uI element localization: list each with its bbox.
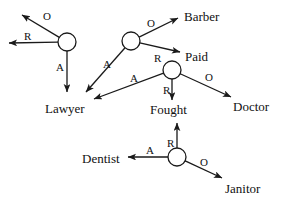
- predicate-node[interactable]: [168, 148, 186, 166]
- edge-role-label-a: A: [130, 73, 138, 84]
- predicate-node[interactable]: [58, 33, 76, 51]
- edge-role-label-r: R: [154, 53, 161, 64]
- node-label-dentist: Dentist: [82, 152, 120, 165]
- node-label-barber: Barber: [184, 10, 219, 23]
- edge-role-label-r: R: [24, 31, 31, 42]
- node-label-janitor: Janitor: [225, 182, 260, 195]
- edge-role-label-o: O: [43, 11, 51, 22]
- edge-r: [9, 42, 58, 43]
- edge-role-label-a: A: [103, 59, 111, 70]
- edge-r: [140, 43, 180, 52]
- edge-role-label-a: A: [56, 62, 64, 73]
- node-label-fought: Fought: [150, 103, 187, 116]
- edge-role-label-o: O: [147, 18, 155, 29]
- edges-group: [9, 15, 231, 178]
- predicate-node[interactable]: [122, 32, 140, 50]
- diagram-canvas: BarberPaidLawyerFoughtDoctorDentistJanit…: [0, 0, 284, 202]
- edge-a: [94, 73, 164, 99]
- edge-role-label-o: O: [205, 72, 213, 83]
- edge-role-label-a: A: [146, 145, 154, 156]
- edge-o: [139, 18, 178, 37]
- predicate-node[interactable]: [163, 61, 181, 79]
- node-label-doctor: Doctor: [233, 100, 269, 113]
- edge-role-label-o: O: [200, 157, 208, 168]
- edge-role-label-r: R: [163, 85, 170, 96]
- edge-role-label-r: R: [167, 138, 174, 149]
- node-label-lawyer: Lawyer: [45, 102, 85, 115]
- node-label-paid: Paid: [185, 50, 208, 63]
